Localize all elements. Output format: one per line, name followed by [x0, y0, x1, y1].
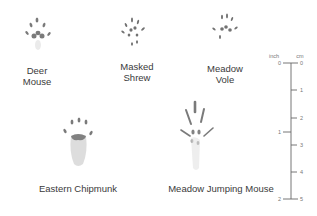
- inch-header: inch: [269, 53, 279, 59]
- label-line: Deer: [12, 65, 62, 76]
- masked-shrew-label: Masked Shrew: [112, 61, 162, 83]
- cm-tick-label: 4: [300, 169, 303, 175]
- label-line: Mouse: [12, 76, 62, 87]
- inch-tick-label: 2: [278, 196, 281, 202]
- label-line: Meadow: [200, 63, 250, 74]
- label-line: Masked: [112, 61, 162, 72]
- cm-tick-label: 2: [300, 115, 303, 121]
- label-line: Shrew: [112, 72, 162, 83]
- deer-mouse-track-icon: [18, 14, 58, 56]
- cm-tick-label: 3: [300, 142, 303, 148]
- eastern-chipmunk-track-icon: [58, 112, 98, 174]
- meadow-jumping-mouse-track-icon: [172, 98, 222, 176]
- inch-tick-label: 1: [278, 129, 281, 135]
- meadow-vole-track-icon: [205, 12, 245, 50]
- inch-tick-label: 0: [278, 60, 281, 66]
- scale-ruler: inch cm 0 1 2 0 1 2 3 4 5: [250, 50, 317, 210]
- eastern-chipmunk-label: Eastern Chipmunk: [28, 183, 128, 194]
- cm-tick-label: 0: [300, 60, 303, 66]
- label-line: Eastern Chipmunk: [28, 183, 128, 194]
- label-line: Vole: [200, 74, 250, 85]
- cm-tick-label: 1: [300, 87, 303, 93]
- deer-mouse-label: Deer Mouse: [12, 65, 62, 87]
- meadow-vole-label: Meadow Vole: [200, 63, 250, 85]
- masked-shrew-track-icon: [115, 14, 155, 54]
- cm-tick-label: 5: [300, 196, 303, 202]
- cm-header: cm: [296, 53, 304, 59]
